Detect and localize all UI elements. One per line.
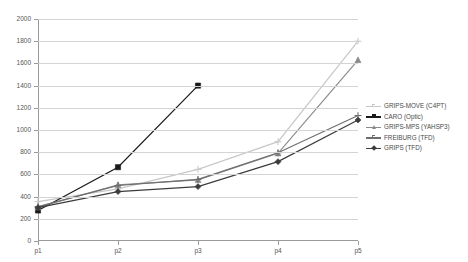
y-axis-label: 1000 (17, 127, 31, 134)
x-axis-label: p5 (354, 248, 361, 255)
legend-item-label: CARO (Optic) (384, 114, 423, 120)
gridline (38, 197, 358, 198)
y-axis-label: 1600 (17, 60, 31, 67)
x-axis-label: p1 (34, 248, 41, 255)
y-axis-label: 2000 (17, 16, 31, 23)
y-tick (34, 219, 38, 220)
legend-item-label: FREIBURG (TFD) (384, 135, 435, 141)
y-tick (34, 197, 38, 198)
legend-swatch-icon (366, 143, 381, 153)
gridline (38, 63, 358, 64)
y-axis-label: 1400 (17, 83, 31, 90)
y-axis-label: 600 (20, 171, 31, 178)
gridline (38, 108, 358, 109)
series-marker (195, 184, 201, 190)
gridline (38, 19, 358, 20)
x-tick (278, 241, 279, 245)
plot-inner: 0200400600800100012001400160018002000p1p… (38, 19, 358, 241)
series-marker (355, 117, 361, 123)
x-tick (198, 241, 199, 245)
legend-swatch-icon (366, 133, 381, 143)
y-tick (34, 108, 38, 109)
x-axis-label: p3 (194, 248, 201, 255)
series-marker (355, 57, 361, 63)
x-tick (358, 241, 359, 245)
gridline (38, 130, 358, 131)
x-tick (38, 241, 39, 245)
gridline (38, 174, 358, 175)
legend-swatch-icon (366, 101, 381, 111)
y-axis-label: 200 (20, 216, 31, 223)
series-marker (275, 159, 281, 165)
y-tick (34, 152, 38, 153)
x-axis-label: p2 (114, 248, 121, 255)
y-tick (34, 86, 38, 87)
legend-item[interactable]: CARO (Optic) (366, 112, 466, 123)
legend-swatch-icon (366, 112, 381, 122)
gridline (38, 86, 358, 87)
y-tick (34, 19, 38, 20)
legend-swatch-icon (366, 122, 381, 132)
legend-item[interactable]: FREIBURG (TFD) (366, 133, 466, 144)
y-axis-label: 0 (27, 238, 31, 245)
legend-item[interactable]: GRIPS-MPS (YAHSP3) (366, 122, 466, 133)
line-chart: 0200400600800100012001400160018002000p1p… (0, 0, 468, 262)
gridline (38, 219, 358, 220)
plot-area: 0200400600800100012001400160018002000p1p… (38, 19, 358, 241)
y-tick (34, 41, 38, 42)
legend-item-label: GRIPS-MPS (YAHSP3) (384, 124, 450, 130)
series-marker (115, 165, 120, 170)
y-tick (34, 63, 38, 64)
legend-item[interactable]: GRIPS-MOVE (C4PT) (366, 101, 466, 112)
legend-item[interactable]: GRIPS (TFD) (366, 143, 466, 154)
y-axis-label: 800 (20, 149, 31, 156)
y-tick (34, 174, 38, 175)
gridline (38, 152, 358, 153)
y-tick (34, 130, 38, 131)
legend-item-label: GRIPS-MOVE (C4PT) (384, 103, 446, 109)
x-tick (118, 241, 119, 245)
chart-legend: GRIPS-MOVE (C4PT)CARO (Optic)GRIPS-MPS (… (366, 101, 466, 154)
gridline (38, 41, 358, 42)
y-axis-label: 400 (20, 194, 31, 201)
series-marker (195, 166, 202, 173)
legend-item-label: GRIPS (TFD) (384, 145, 422, 151)
y-axis-label: 1200 (17, 105, 31, 112)
x-axis-label: p4 (274, 248, 281, 255)
y-axis-label: 1800 (17, 38, 31, 45)
